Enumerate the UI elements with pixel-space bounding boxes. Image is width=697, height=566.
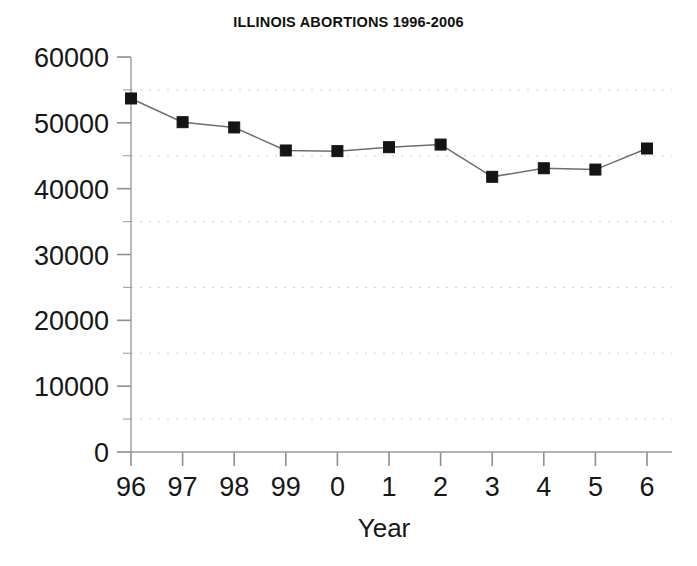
x-tick-label: 5 [588, 472, 603, 502]
data-point-marker [384, 142, 395, 153]
y-axis-tick-labels: 0100002000030000400005000060000 [34, 43, 109, 468]
y-axis-ticks [117, 57, 131, 452]
x-tick-label: 2 [433, 472, 448, 502]
data-point-marker [332, 146, 343, 157]
y-tick-label: 50000 [34, 109, 109, 139]
chart-container: ILLINOIS ABORTIONS 1996-2006 01000020000… [0, 0, 697, 566]
data-point-marker [229, 122, 240, 133]
x-tick-label: 6 [639, 472, 654, 502]
x-tick-label: 97 [168, 472, 198, 502]
y-tick-label: 0 [94, 438, 109, 468]
data-point-marker [126, 93, 137, 104]
data-point-marker [642, 143, 653, 154]
x-axis-ticks [131, 452, 647, 466]
data-series-line [131, 98, 647, 176]
x-tick-label: 0 [330, 472, 345, 502]
x-tick-label: 4 [536, 472, 551, 502]
data-point-marker [487, 171, 498, 182]
y-tick-label: 10000 [34, 372, 109, 402]
y-tick-label: 40000 [34, 175, 109, 205]
x-tick-label: 99 [271, 472, 301, 502]
y-tick-label: 20000 [34, 306, 109, 336]
x-axis-tick-labels: 969798990123456 [116, 472, 655, 502]
gridlines [131, 90, 672, 419]
data-point-marker [280, 145, 291, 156]
x-tick-label: 3 [485, 472, 500, 502]
y-tick-label: 60000 [34, 43, 109, 73]
line-chart-plot: 0100002000030000400005000060000 96979899… [0, 0, 697, 566]
x-tick-label: 98 [219, 472, 249, 502]
data-point-marker [435, 139, 446, 150]
x-tick-label: 96 [116, 472, 146, 502]
data-point-marker [177, 117, 188, 128]
y-tick-label: 30000 [34, 241, 109, 271]
data-point-marker [590, 164, 601, 175]
data-point-marker [538, 163, 549, 174]
x-tick-label: 1 [381, 472, 396, 502]
x-axis-title: Year [358, 513, 411, 543]
